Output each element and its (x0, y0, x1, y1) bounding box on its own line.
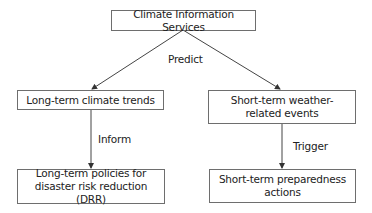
node-label: Short-term weather-related events (215, 94, 349, 120)
node-label: Long-term policies for disaster risk red… (22, 167, 160, 206)
edge-label-trigger: Trigger (293, 140, 328, 152)
node-label: Climate Information Services (112, 8, 255, 34)
node-label: Long-term climate trends (26, 94, 154, 107)
node-label: Short-term preparedness actions (218, 173, 347, 199)
node-short-term-weather-events: Short-term weather-related events (208, 90, 356, 124)
edge-label-inform: Inform (98, 133, 131, 145)
node-long-term-policies-drr: Long-term policies for disaster risk red… (17, 169, 165, 204)
node-short-term-preparedness-actions: Short-term preparedness actions (209, 169, 356, 203)
edge-label-predict: Predict (168, 53, 203, 65)
node-long-term-climate-trends: Long-term climate trends (17, 90, 164, 110)
node-climate-information-services: Climate Information Services (111, 10, 256, 31)
